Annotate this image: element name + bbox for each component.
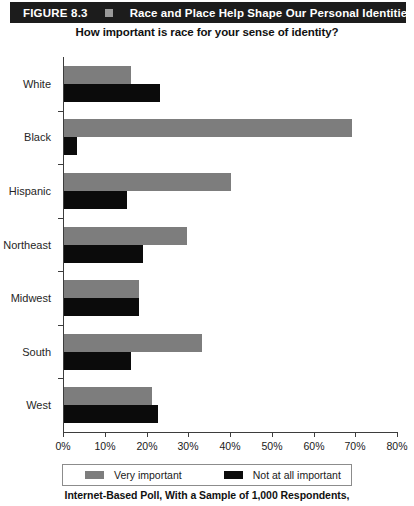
- category-label-white: White: [23, 78, 51, 90]
- bar-south-not-at-all-important: [64, 352, 131, 370]
- bar-hispanic-not-at-all-important: [64, 191, 127, 209]
- bar-white-not-at-all-important: [64, 84, 160, 102]
- category-axis-labels: WhiteBlackHispanicNortheastMidwestSouthW…: [0, 57, 63, 432]
- bar-northeast-not-at-all-important: [64, 245, 143, 263]
- chart-legend: Very important Not at all important: [62, 464, 352, 486]
- x-axis-tick: [105, 432, 106, 437]
- x-axis-tick-label: 30%: [177, 440, 198, 452]
- bar-midwest-very-important: [64, 280, 139, 298]
- bar-black-very-important: [64, 119, 352, 137]
- bar-south-very-important: [64, 334, 202, 352]
- x-axis-tick: [147, 432, 148, 437]
- y-axis-tick: [58, 325, 64, 326]
- square-bullet-icon: [105, 9, 113, 17]
- y-axis-tick: [58, 378, 64, 379]
- figure-number: FIGURE 8.3: [23, 7, 88, 19]
- category-label-west: West: [26, 399, 51, 411]
- y-axis-tick: [58, 111, 64, 112]
- x-axis-tick: [355, 432, 356, 437]
- x-axis-tick-label: 50%: [261, 440, 282, 452]
- bar-hispanic-very-important: [64, 173, 231, 191]
- legend-item-not-at-all-important: Not at all important: [224, 469, 341, 481]
- figure-title: Race and Place Help Shape Our Personal I…: [130, 7, 414, 19]
- category-label-midwest: Midwest: [11, 292, 51, 304]
- category-label-hispanic: Hispanic: [9, 185, 51, 197]
- x-axis-tick-label: 40%: [219, 440, 240, 452]
- y-axis-tick: [58, 164, 64, 165]
- x-axis-tick-label: 20%: [136, 440, 157, 452]
- legend-label-not-at-all-important: Not at all important: [253, 469, 341, 481]
- black-square-swatch: [224, 471, 243, 479]
- legend-label-very-important: Very important: [114, 469, 182, 481]
- bar-west-very-important: [64, 387, 152, 405]
- chart-caption: Internet-Based Poll, With a Sample of 1,…: [0, 489, 414, 501]
- gray-square-swatch: [85, 471, 104, 479]
- bar-midwest-not-at-all-important: [64, 298, 139, 316]
- bar-northeast-very-important: [64, 227, 187, 245]
- figure-header-bar: FIGURE 8.3 Race and Place Help Shape Our…: [10, 2, 406, 23]
- y-axis-tick: [58, 218, 64, 219]
- x-axis-tick-label: 60%: [303, 440, 324, 452]
- x-axis-tick: [188, 432, 189, 437]
- bar-white-very-important: [64, 66, 131, 84]
- category-label-south: South: [22, 346, 51, 358]
- x-axis-tick: [230, 432, 231, 437]
- bar-west-not-at-all-important: [64, 405, 158, 423]
- x-axis-tick: [63, 432, 64, 437]
- x-axis-tick-label: 80%: [386, 440, 407, 452]
- x-axis-tick-label: 0%: [55, 440, 70, 452]
- category-label-black: Black: [24, 131, 51, 143]
- bar-black-not-at-all-important: [64, 137, 77, 155]
- x-axis-tick: [314, 432, 315, 437]
- x-axis-tick: [397, 432, 398, 437]
- x-axis-tick-label: 70%: [344, 440, 365, 452]
- y-axis-tick: [58, 271, 64, 272]
- legend-item-very-important: Very important: [85, 469, 182, 481]
- chart-plot-area: 0%10%20%30%40%50%60%70%80%: [63, 57, 397, 432]
- chart-subtitle: How important is race for your sense of …: [0, 26, 414, 38]
- x-axis-tick: [272, 432, 273, 437]
- category-label-northeast: Northeast: [3, 239, 51, 251]
- x-axis-tick-label: 10%: [94, 440, 115, 452]
